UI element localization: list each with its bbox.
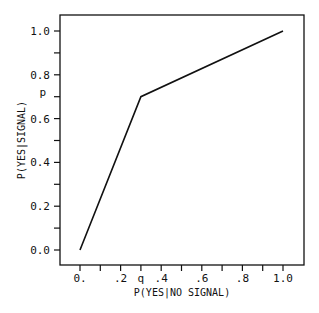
x-tick-label: .4 [155, 272, 169, 285]
x-axis-title: P(YES|NO SIGNAL) [134, 287, 230, 299]
y-axis-ticks [54, 31, 60, 250]
x-tick-label: 0. [73, 272, 86, 285]
x-tick-label: .2 [114, 272, 127, 285]
x-tick-label: 1.0 [273, 272, 293, 285]
y-tick-label: 1.0 [30, 25, 50, 38]
y-axis-tick-labels: 0.00.20.40.6p0.81.0 [30, 25, 50, 257]
y-tick-label: p [39, 86, 46, 99]
x-tick-label: .6 [195, 272, 208, 285]
x-tick-label: .8 [236, 272, 249, 285]
y-tick-label: 0.2 [30, 200, 50, 213]
roc-chart: 0..2q.4.6.81.0 0.00.20.40.6p0.81.0 P(YES… [0, 0, 319, 313]
y-axis-title: P(YES|SIGNAL) [16, 101, 28, 179]
y-tick-label: 0.6 [30, 113, 50, 126]
x-axis-tick-labels: 0..2q.4.6.81.0 [73, 272, 293, 285]
y-tick-label: 0.8 [30, 69, 50, 82]
x-axis-ticks [80, 265, 283, 271]
roc-curve [80, 31, 283, 250]
y-tick-label: 0.4 [30, 156, 50, 169]
plot-frame [60, 15, 304, 265]
y-tick-label: 0.0 [30, 244, 50, 257]
x-tick-label: q [138, 272, 145, 285]
